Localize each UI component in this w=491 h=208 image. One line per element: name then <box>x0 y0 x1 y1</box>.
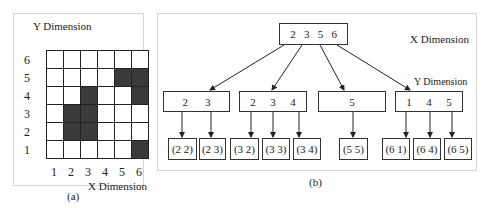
node-key: 2 <box>290 28 296 40</box>
y-node-1: 2 3 <box>163 91 230 112</box>
leaf-node: (2 2) <box>168 138 197 160</box>
node-key: 2 <box>250 96 256 108</box>
leaf-node: (5 5) <box>339 138 368 160</box>
node-key: 4 <box>426 96 432 108</box>
leaf-node: (6 5) <box>444 138 472 160</box>
node-key: 6 <box>331 28 337 40</box>
y-dimension-label-b: Y Dimension <box>414 76 467 87</box>
leaf-node: (2 3) <box>199 138 226 160</box>
node-key: 2 <box>183 96 189 108</box>
node-key: 5 <box>318 28 324 40</box>
leaf-node: (3 2) <box>230 138 259 160</box>
node-key: 5 <box>446 96 452 108</box>
y-node-3: 5 <box>318 91 386 112</box>
node-key: 3 <box>205 96 211 108</box>
leaf-node: (6 1) <box>382 138 410 160</box>
node-key: 1 <box>406 96 412 108</box>
caption-b: (b) <box>309 176 322 188</box>
node-key: 5 <box>349 96 355 108</box>
y-node-2: 2 3 4 <box>239 91 307 112</box>
node-key: 3 <box>304 28 310 40</box>
node-key: 3 <box>270 96 276 108</box>
leaf-node: (3 3) <box>262 138 290 160</box>
leaf-node: (6 4) <box>413 138 441 160</box>
node-key: 4 <box>290 96 296 108</box>
leaf-node: (3 4) <box>293 138 321 160</box>
y-node-4: 1 4 5 <box>395 91 463 112</box>
x-dimension-label-b: X Dimension <box>410 33 469 45</box>
root-node: 2 3 5 6 <box>279 23 348 45</box>
